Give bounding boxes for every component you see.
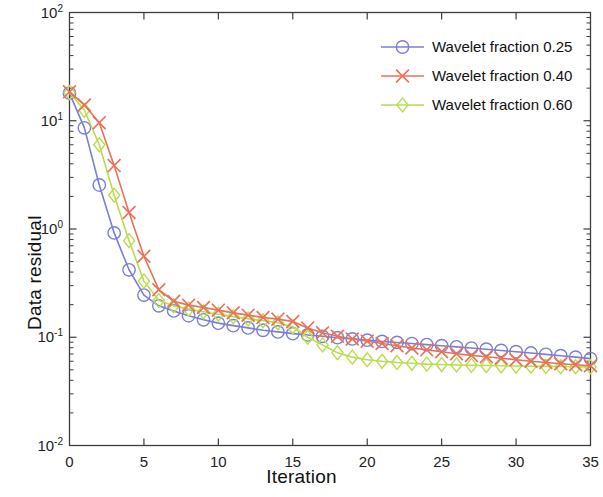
series-line	[70, 93, 591, 358]
legend-entry-1	[381, 70, 424, 83]
x-tick-label: 30	[486, 453, 546, 470]
x-tick-label: 0	[40, 453, 100, 470]
x-tick-label: 20	[337, 453, 397, 470]
series-line	[70, 93, 591, 367]
y-tick-label: 102	[5, 3, 63, 21]
series-1	[63, 85, 597, 372]
x-tick-label: 35	[561, 453, 603, 470]
series-0	[63, 87, 596, 365]
series-line	[70, 92, 591, 366]
y-tick-label: 10-1	[5, 327, 63, 345]
legend-label: Wavelet fraction 0.40	[432, 67, 572, 84]
x-tick-label: 5	[114, 453, 174, 470]
y-tick-label: 101	[5, 111, 63, 129]
y-tick-label: 10-2	[5, 436, 63, 454]
y-tick-label: 100	[5, 219, 63, 237]
legend-label: Wavelet fraction 0.60	[432, 96, 572, 113]
x-tick-label: 15	[263, 453, 323, 470]
legend-entry-2	[381, 98, 424, 112]
legend-entry-0	[381, 41, 424, 53]
x-tick-label: 25	[412, 453, 472, 470]
legend-label: Wavelet fraction 0.25	[432, 38, 572, 55]
series-2	[64, 86, 596, 374]
x-tick-label: 10	[188, 453, 248, 470]
figure: Iteration Data residual 0510152025303510…	[0, 0, 603, 497]
